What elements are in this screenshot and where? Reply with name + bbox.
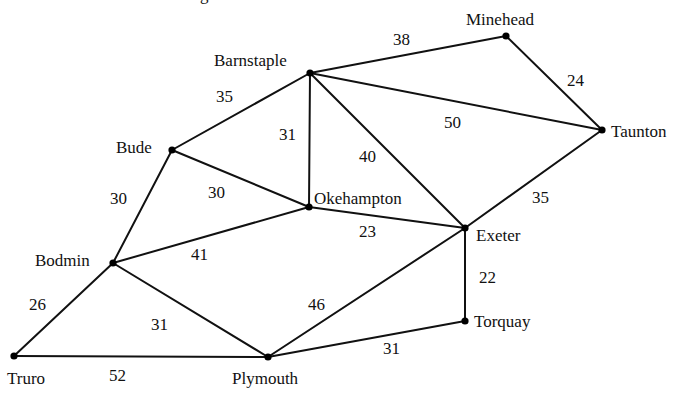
node-truro: [10, 352, 17, 359]
edge-weight-bude-okehampton: 30: [208, 183, 225, 202]
edge-weight-barnstaple-minehead: 38: [393, 30, 410, 49]
node-label-okehampton: Okehampton: [314, 189, 402, 208]
edge-plymouth-torquay: [268, 321, 465, 357]
cropped-title-fragment: g: [200, 0, 209, 4]
node-label-bodmin: Bodmin: [35, 251, 90, 270]
edge-weight-bude-bodmin: 30: [110, 189, 127, 208]
graph-canvas: g 3824503531403030233541224626313152 Bar…: [0, 0, 685, 397]
edge-weight-minehead-taunton: 24: [567, 71, 585, 90]
edge-weight-bodmin-truro: 26: [29, 295, 46, 314]
edge-weight-barnstaple-bude: 35: [216, 87, 233, 106]
node-plymouth: [264, 353, 271, 360]
graph-diagram: g 3824503531403030233541224626313152 Bar…: [0, 0, 685, 397]
edge-weight-okehampton-bodmin: 41: [191, 245, 208, 264]
edge-weight-okehampton-exeter: 23: [359, 222, 376, 241]
node-bude: [168, 146, 175, 153]
node-label-minehead: Minehead: [466, 10, 534, 29]
edge-exeter-plymouth: [268, 228, 465, 357]
node-taunton: [598, 126, 605, 133]
edge-okehampton-exeter: [309, 207, 465, 228]
edge-barnstaple-okehampton: [309, 73, 310, 207]
edge-weight-plymouth-torquay: 31: [383, 339, 400, 358]
node-label-truro: Truro: [7, 369, 45, 388]
node-label-bude: Bude: [116, 138, 152, 157]
node-label-exeter: Exeter: [476, 226, 521, 245]
edge-taunton-exeter: [465, 130, 602, 228]
node-bodmin: [109, 259, 116, 266]
node-labels-layer: BarnstapleMineheadTauntonBudeOkehamptonE…: [7, 10, 667, 388]
node-label-plymouth: Plymouth: [232, 369, 299, 388]
node-label-torquay: Torquay: [474, 312, 531, 331]
edge-weight-exeter-plymouth: 46: [308, 295, 325, 314]
edge-weight-barnstaple-exeter: 40: [359, 147, 376, 166]
edge-okehampton-bodmin: [113, 207, 309, 263]
node-label-taunton: Taunton: [611, 122, 667, 141]
edge-weight-barnstaple-taunton: 50: [444, 113, 461, 132]
edge-weight-exeter-torquay: 22: [479, 268, 496, 287]
edge-weight-bodmin-plymouth: 31: [151, 315, 168, 334]
edge-truro-plymouth: [14, 356, 268, 357]
edge-weight-taunton-exeter: 35: [532, 188, 549, 207]
node-exeter: [461, 224, 468, 231]
edge-bude-okehampton: [172, 150, 309, 207]
node-barnstaple: [306, 69, 313, 76]
node-minehead: [502, 32, 509, 39]
edge-weight-barnstaple-okehampton: 31: [279, 125, 296, 144]
node-torquay: [461, 317, 468, 324]
edge-bodmin-plymouth: [113, 263, 268, 357]
node-okehampton: [305, 203, 312, 210]
edge-minehead-taunton: [506, 36, 602, 130]
edge-weight-truro-plymouth: 52: [109, 366, 126, 385]
node-label-barnstaple: Barnstaple: [214, 51, 287, 70]
